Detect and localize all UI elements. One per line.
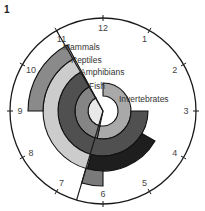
geological-clock-diagram: 121234567891011 MammalsReptilesAmphibian… <box>0 0 205 211</box>
hour-label: 8 <box>29 148 34 158</box>
hour-label: 3 <box>183 106 188 116</box>
hour-label: 6 <box>100 189 105 199</box>
hour-label: 10 <box>26 65 36 75</box>
label-invertebrates: Invertebrates <box>119 94 169 104</box>
hour-label: 12 <box>98 23 108 33</box>
label-fish: Fish <box>89 81 105 91</box>
label-reptiles: Reptiles <box>71 55 102 65</box>
hour-label: 4 <box>172 148 177 158</box>
label-amphibians: Amphibians <box>80 67 124 77</box>
label-mammals: Mammals <box>63 42 100 52</box>
hour-label: 2 <box>172 65 177 75</box>
hour-label: 1 <box>142 34 147 44</box>
hour-label: 9 <box>17 106 22 116</box>
hour-label: 7 <box>59 178 64 188</box>
hour-label: 5 <box>142 178 147 188</box>
